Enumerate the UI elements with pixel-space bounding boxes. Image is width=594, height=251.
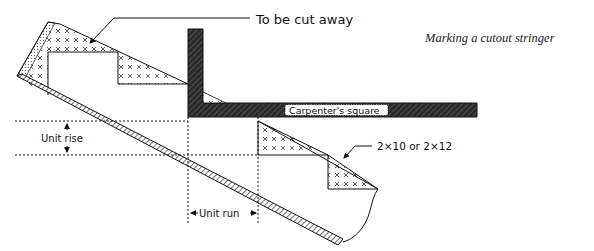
stringer-bottom-edge: [17, 74, 343, 245]
figure-caption: Marking a cutout stringer: [424, 31, 555, 45]
cut-away-label: To be cut away: [255, 12, 353, 27]
unit-run-label: Unit run: [199, 208, 239, 219]
carpenters-square-label: Carpenter's square: [289, 105, 380, 116]
waste-region-top: [17, 22, 188, 95]
unit-rise-label: Unit rise: [41, 133, 83, 144]
lumber-callout: 2×10 or 2×12: [344, 140, 452, 158]
stringer-diagram: Carpenter's square Unit rise Unit run To…: [0, 0, 594, 251]
waste-region-bottom: [258, 121, 378, 242]
cut-away-callout: To be cut away: [90, 12, 353, 43]
unit-run-dimension: Unit run: [191, 208, 256, 219]
lumber-label: 2×10 or 2×12: [377, 140, 452, 152]
unit-rise-dimension: Unit rise: [41, 124, 83, 152]
